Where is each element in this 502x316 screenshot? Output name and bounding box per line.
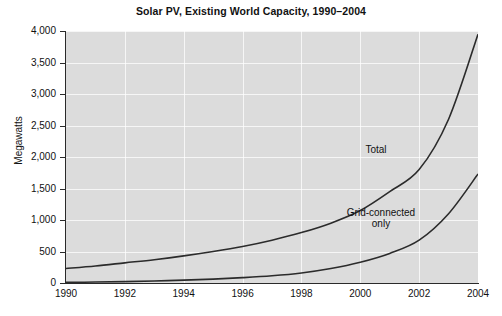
y-tick-mark — [60, 220, 66, 221]
y-tick-label: 0 — [0, 277, 56, 288]
x-tick-label: 1998 — [276, 288, 326, 299]
y-tick-label: 3,500 — [0, 57, 56, 68]
y-axis-ticks: 4,000 3,500 3,000 2,500 2,000 1,500 1,00… — [0, 0, 502, 316]
x-tick-label: 2004 — [453, 288, 502, 299]
x-tick-label: 1994 — [159, 288, 209, 299]
series-label-total: Total — [348, 144, 404, 155]
y-tick-mark — [60, 157, 66, 158]
x-tick-label: 1996 — [218, 288, 268, 299]
x-tick-label: 1990 — [41, 288, 91, 299]
y-tick-mark — [60, 189, 66, 190]
y-tick-label: 4,000 — [0, 25, 56, 36]
series-label-grid-line1: Grid-connected — [347, 207, 415, 218]
y-tick-mark — [60, 94, 66, 95]
y-tick-label: 2,000 — [0, 151, 56, 162]
chart-container: Solar PV, Existing World Capacity, 1990–… — [0, 0, 502, 316]
y-tick-label: 3,000 — [0, 88, 56, 99]
x-tick-label: 1992 — [100, 288, 150, 299]
y-tick-label: 2,500 — [0, 120, 56, 131]
x-tick-label: 2000 — [335, 288, 385, 299]
y-tick-mark — [60, 63, 66, 64]
y-tick-mark — [60, 31, 66, 32]
x-tick-label: 2002 — [394, 288, 444, 299]
y-tick-label: 1,000 — [0, 214, 56, 225]
y-tick-mark — [60, 283, 66, 284]
y-tick-mark — [60, 126, 66, 127]
y-tick-label: 500 — [0, 246, 56, 257]
series-label-grid-connected: Grid-connected only — [336, 207, 426, 229]
y-tick-mark — [60, 252, 66, 253]
y-tick-label: 1,500 — [0, 183, 56, 194]
series-label-grid-line2: only — [372, 218, 390, 229]
